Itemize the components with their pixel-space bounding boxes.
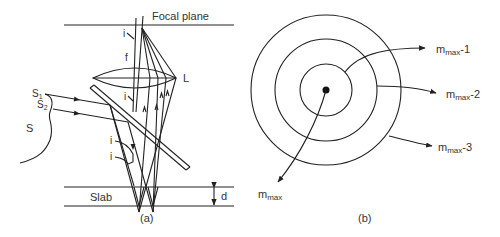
source-point-2-label: S2 bbox=[37, 99, 48, 111]
angle-bracket bbox=[128, 154, 133, 164]
figure-canvas: Focal plane L f i i bbox=[0, 0, 500, 237]
angle-mid-label: i bbox=[124, 91, 126, 102]
beam-splitter bbox=[90, 85, 190, 170]
arrow-ring-1 bbox=[345, 48, 425, 72]
angle-low2-label: i bbox=[110, 151, 112, 162]
source-label: S bbox=[26, 122, 33, 134]
ring-2-label: mmax-2 bbox=[446, 88, 480, 102]
angle-top-pointer bbox=[127, 33, 134, 39]
arrow-center bbox=[278, 90, 326, 182]
thickness-label: d bbox=[221, 190, 227, 202]
arrow-ring-3 bbox=[389, 136, 432, 146]
axis-line-1 bbox=[133, 18, 136, 112]
panel-b: mmax-1 mmax-2 mmax-3 mmax (b) bbox=[251, 15, 480, 224]
arrow-ring-2 bbox=[377, 86, 436, 93]
ring-3-label: mmax-3 bbox=[438, 141, 472, 155]
focal-plane-label: Focal plane bbox=[152, 10, 209, 22]
converging-rays bbox=[139, 28, 176, 212]
slab-label: Slab bbox=[90, 191, 112, 203]
lens-label: L bbox=[183, 72, 189, 84]
center-label: mmax bbox=[258, 188, 282, 202]
angle-mid-pointer bbox=[128, 96, 133, 101]
caption-a: (a) bbox=[140, 212, 153, 224]
panel-a: Focal plane L f i i bbox=[20, 10, 234, 224]
angle-top-label: i bbox=[123, 28, 125, 39]
caption-b: (b) bbox=[358, 212, 371, 224]
ring-1-label: mmax-1 bbox=[436, 43, 470, 57]
angle-low1-label: i bbox=[110, 135, 112, 146]
focal-length-label: f bbox=[125, 52, 128, 63]
